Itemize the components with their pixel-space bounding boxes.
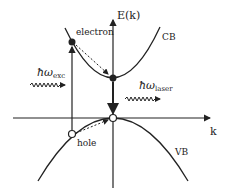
excitation-photon-subscript: exc [53, 72, 65, 80]
energy-axis-label: E(k) [117, 9, 140, 22]
laser-photon-subscript: laser [155, 85, 173, 93]
valence-band-label: VB [174, 147, 188, 157]
band-diagram: E(k) k CB VB electron hole ħωexc ħωlaser [0, 0, 226, 190]
relaxed-electron-dot [110, 75, 117, 82]
excited-hole-circle [69, 131, 76, 138]
laser-photon-label: ħωlaser [139, 79, 173, 93]
relaxed-hole-circle [110, 115, 117, 122]
electron-label: electron [76, 27, 114, 37]
laser-photon-symbol: ħω [139, 79, 155, 92]
k-axis-label: k [210, 125, 217, 138]
hole-relaxation-arrow [76, 120, 108, 133]
laser-photon-wave-icon [125, 97, 160, 101]
excitation-photon-symbol: ħω [37, 66, 53, 79]
excitation-photon-wave-icon [30, 83, 65, 87]
electron-relaxation-arrow [76, 45, 108, 74]
conduction-band-label: CB [162, 32, 176, 42]
hole-label: hole [77, 138, 96, 148]
excited-electron-dot [69, 39, 76, 46]
excitation-photon-label: ħωexc [37, 66, 65, 80]
